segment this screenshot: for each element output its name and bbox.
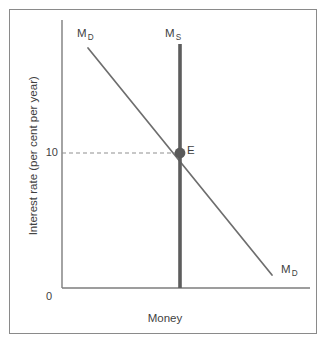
money-market-chart-figure: MD MS MD E 10 0 Money Interest rate (per…	[0, 0, 330, 345]
equilibrium-point-dot	[175, 148, 186, 159]
demand-label-main-top: M	[77, 27, 87, 39]
demand-curve-label-bottom: MD	[281, 264, 297, 276]
origin-label: 0	[46, 291, 52, 302]
y-axis-title: Interest rate (per cent per year)	[28, 56, 40, 256]
supply-label-sub: S	[176, 33, 182, 42]
demand-label-main-bottom: M	[281, 263, 291, 275]
demand-curve-label-top: MD	[77, 28, 93, 40]
demand-label-sub-bottom: D	[292, 269, 298, 278]
demand-label-sub-top: D	[88, 33, 94, 42]
equilibrium-point-label: E	[187, 145, 195, 157]
supply-curve-label: MS	[165, 28, 180, 40]
x-axis-title: Money	[0, 313, 330, 325]
supply-label-main: M	[165, 27, 175, 39]
